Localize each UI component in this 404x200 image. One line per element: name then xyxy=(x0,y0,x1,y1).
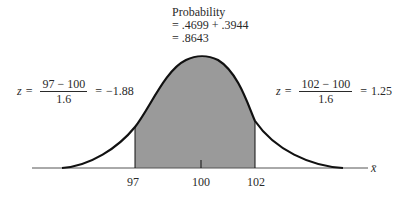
denominator: 1.6 xyxy=(318,92,333,105)
equals-sign: = xyxy=(26,84,33,99)
equals-sign: = xyxy=(285,84,292,99)
tick-label-97: 97 xyxy=(127,176,139,188)
fraction: 97 − 100 1.6 xyxy=(40,78,87,105)
right-z-equation: z = 102 − 100 1.6 = 1.25 xyxy=(276,78,392,105)
z-result: −1.88 xyxy=(106,84,134,99)
z-result: 1.25 xyxy=(371,84,392,99)
tick-label-100: 100 xyxy=(192,176,210,188)
probability-sum: = .4699 + .3944 xyxy=(172,19,249,31)
numerator: 97 − 100 xyxy=(40,78,87,92)
z-variable: z xyxy=(17,84,22,99)
z-variable: z xyxy=(276,84,281,99)
equals-sign: = xyxy=(95,84,102,99)
denominator: 1.6 xyxy=(56,92,71,105)
left-z-equation: z = 97 − 100 1.6 = −1.88 xyxy=(17,78,134,105)
fraction: 102 − 100 1.6 xyxy=(299,78,352,105)
probability-label: Probability xyxy=(172,6,225,18)
axis-label-xbar: x̄ xyxy=(371,162,376,174)
numerator: 102 − 100 xyxy=(299,78,352,92)
tick-label-102: 102 xyxy=(247,176,265,188)
shaded-area xyxy=(135,56,255,168)
equals-sign: = xyxy=(360,84,367,99)
probability-total: = .8643 xyxy=(172,32,209,44)
